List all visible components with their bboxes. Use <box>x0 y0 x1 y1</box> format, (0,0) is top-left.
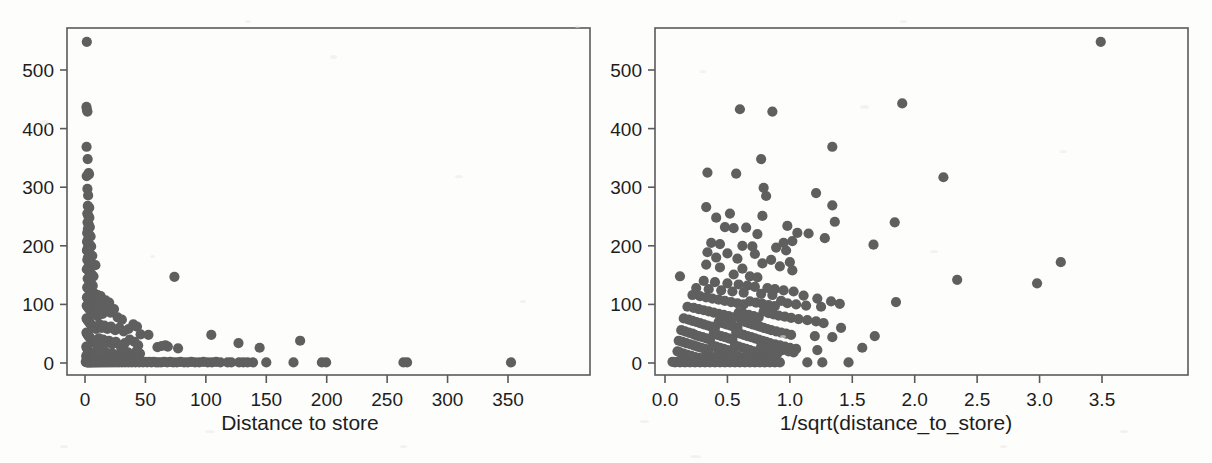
data-point <box>827 332 837 342</box>
y-tick-label: 400 <box>22 119 54 140</box>
data-point <box>402 357 412 367</box>
data-point <box>802 357 812 367</box>
scatter-plot-right: 01002003004005000.00.51.01.52.02.53.03.5… <box>606 0 1212 463</box>
data-point <box>84 169 94 179</box>
x-tick-label: 300 <box>432 389 464 410</box>
data-point <box>789 347 799 357</box>
data-point <box>802 315 812 325</box>
data-point <box>812 345 822 355</box>
data-point <box>701 202 711 212</box>
data-point <box>835 299 845 309</box>
data-point <box>870 331 880 341</box>
panel-distance-to-store: 0100200300400500050100150200250300350Dis… <box>0 0 606 463</box>
data-point <box>826 296 836 306</box>
data-point <box>798 291 808 301</box>
data-point <box>897 98 907 108</box>
x-tick-label: 3.5 <box>1089 389 1115 410</box>
data-point <box>775 357 785 367</box>
data-point <box>233 338 243 348</box>
data-point-group <box>81 37 516 368</box>
data-point <box>727 286 737 296</box>
data-point <box>741 223 751 233</box>
data-point <box>767 107 777 117</box>
data-point <box>757 258 767 268</box>
data-point <box>818 318 828 328</box>
y-tick-label: 300 <box>22 177 54 198</box>
y-tick-label: 100 <box>610 294 642 315</box>
data-point <box>716 285 726 295</box>
data-point <box>81 142 91 152</box>
data-point <box>169 272 179 282</box>
data-point <box>173 343 183 353</box>
x-tick-label: 350 <box>492 389 524 410</box>
data-point <box>248 357 258 367</box>
data-point <box>857 343 867 353</box>
data-point <box>827 142 837 152</box>
data-point <box>775 261 785 271</box>
data-point <box>732 254 742 264</box>
data-point <box>794 314 804 324</box>
data-point <box>711 213 721 223</box>
x-tick-label: 0 <box>80 389 91 410</box>
data-point <box>261 357 271 367</box>
data-point <box>810 331 820 341</box>
data-point <box>761 191 771 201</box>
x-tick-label: 0.0 <box>652 389 678 410</box>
data-point <box>843 357 853 367</box>
scatter-figure-container: 0100200300400500050100150200250300350Dis… <box>0 0 1212 463</box>
x-tick-label: 2.5 <box>964 389 990 410</box>
data-point <box>789 286 799 296</box>
y-tick-label: 500 <box>22 60 54 81</box>
data-point <box>737 264 747 274</box>
y-tick-label: 500 <box>610 60 642 81</box>
data-point <box>782 221 792 231</box>
data-point <box>779 285 789 295</box>
data-point <box>143 330 153 340</box>
data-point <box>830 217 840 227</box>
data-point <box>827 200 837 210</box>
data-point <box>729 269 739 279</box>
data-point <box>952 275 962 285</box>
y-tick-label: 100 <box>22 294 54 315</box>
data-point <box>781 245 791 255</box>
data-point <box>729 223 739 233</box>
data-point <box>801 300 811 310</box>
data-point <box>803 228 813 238</box>
y-tick-label: 200 <box>22 236 54 257</box>
x-tick-label: 3.0 <box>1026 389 1052 410</box>
x-tick-label: 2.0 <box>902 389 928 410</box>
data-point <box>321 357 331 367</box>
data-point <box>163 341 173 351</box>
plot-frame <box>67 28 590 375</box>
data-point <box>817 357 827 367</box>
data-point <box>206 330 216 340</box>
data-point <box>702 167 712 177</box>
data-point <box>295 336 305 346</box>
data-point <box>756 154 766 164</box>
data-point-group <box>667 37 1105 368</box>
x-tick-label: 50 <box>135 389 156 410</box>
data-point <box>715 262 725 272</box>
x-axis-title: 1/sqrt(distance_to_store) <box>780 411 1012 435</box>
data-point <box>757 211 767 221</box>
data-point <box>715 239 725 249</box>
data-point <box>787 236 797 246</box>
data-point <box>255 343 265 353</box>
data-point <box>1056 257 1066 267</box>
data-point <box>506 357 516 367</box>
data-point <box>288 357 298 367</box>
data-point <box>731 169 741 179</box>
panel-inverse-sqrt-distance: 01002003004005000.00.51.01.52.02.53.03.5… <box>606 0 1212 463</box>
data-point <box>820 233 830 243</box>
data-point <box>868 240 878 250</box>
data-point <box>711 252 721 262</box>
data-point <box>811 188 821 198</box>
x-tick-label: 100 <box>190 389 222 410</box>
y-tick-label: 200 <box>610 236 642 257</box>
scatter-plot-left: 0100200300400500050100150200250300350Dis… <box>0 0 606 463</box>
x-tick-label: 200 <box>311 389 343 410</box>
data-point <box>83 190 93 200</box>
data-point <box>766 255 776 265</box>
data-point <box>735 104 745 114</box>
data-point <box>706 238 716 248</box>
